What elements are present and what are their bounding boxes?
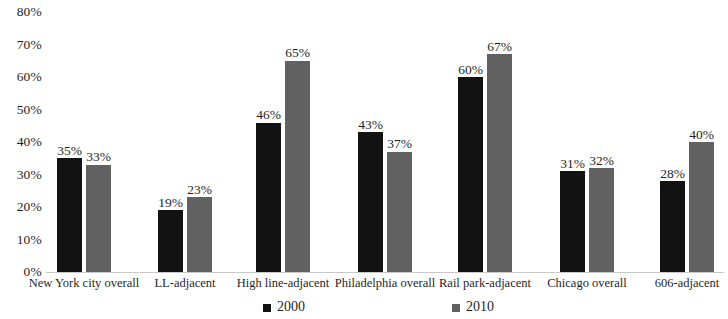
bar-2000-0: 35% — [57, 158, 82, 272]
bar-2010-5: 32% — [589, 168, 614, 272]
bar-group: 19%23% — [158, 12, 212, 272]
bar-group: 46%65% — [256, 12, 310, 272]
bar-group: 60%67% — [458, 12, 512, 272]
bar-2000-6: 28% — [660, 181, 685, 272]
bar-2010-0: 33% — [86, 165, 111, 272]
y-axis-tick-label: 40% — [17, 134, 42, 150]
bar-2010-1: 23% — [187, 197, 212, 272]
bar-2010-6: 40% — [689, 142, 714, 272]
bar-group: 43%37% — [358, 12, 412, 272]
y-axis-tick-label: 70% — [17, 37, 42, 53]
bar-value-label: 31% — [560, 157, 585, 171]
bar-2000-5: 31% — [560, 171, 585, 272]
bar-2000-3: 43% — [358, 132, 383, 272]
x-axis-labels: New York city overallLL-adjacentHigh lin… — [46, 276, 724, 296]
plot-area: 35%33%19%23%46%65%43%37%60%67%31%32%28%4… — [46, 12, 724, 272]
x-axis-category-label: New York city overall — [29, 276, 139, 291]
bar-value-label: 46% — [256, 108, 281, 122]
bar-value-label: 65% — [285, 46, 310, 60]
x-axis-category-label: Chicago overall — [547, 276, 627, 291]
bar-value-label: 40% — [689, 128, 714, 142]
bar-value-label: 35% — [57, 144, 82, 158]
y-axis-tick-label: 10% — [17, 232, 42, 248]
x-axis-category-label: Philadelphia overall — [335, 276, 435, 291]
bar-2000-4: 60% — [458, 77, 483, 272]
bar-value-label: 37% — [387, 137, 412, 151]
bar-group: 35%33% — [57, 12, 111, 272]
bar-value-label: 23% — [187, 183, 212, 197]
legend-label: 2000 — [277, 299, 305, 315]
y-axis-tick-label: 20% — [17, 199, 42, 215]
legend-swatch-icon — [452, 304, 460, 312]
legend-item-2010[interactable]: 2010 — [452, 299, 494, 315]
bar-value-label: 19% — [158, 196, 183, 210]
bar-value-label: 67% — [487, 40, 512, 54]
x-axis-baseline — [46, 272, 724, 273]
bar-value-label: 33% — [86, 150, 111, 164]
bar-2000-1: 19% — [158, 210, 183, 272]
legend-item-2000[interactable]: 2000 — [263, 299, 305, 315]
y-axis: 0%10%20%30%40%50%60%70%80% — [0, 0, 46, 285]
x-axis-category-label: High line-adjacent — [237, 276, 330, 291]
bar-chart: 0%10%20%30%40%50%60%70%80% 35%33%19%23%4… — [0, 0, 728, 319]
bar-group: 31%32% — [560, 12, 614, 272]
chart-legend: 20002010 — [0, 299, 728, 319]
bar-value-label: 28% — [660, 167, 685, 181]
bar-2000-2: 46% — [256, 123, 281, 273]
bar-2010-4: 67% — [487, 54, 512, 272]
bar-value-label: 32% — [589, 154, 614, 168]
y-axis-tick-label: 30% — [17, 167, 42, 183]
x-axis-category-label: Rail park-adjacent — [439, 276, 531, 291]
y-axis-tick-label: 60% — [17, 69, 42, 85]
y-axis-tick-label: 80% — [17, 4, 42, 20]
bar-2010-2: 65% — [285, 61, 310, 272]
bar-value-label: 60% — [458, 63, 483, 77]
legend-label: 2010 — [466, 299, 494, 315]
x-axis-category-label: LL-adjacent — [154, 276, 215, 291]
x-axis-category-label: 606-adjacent — [655, 276, 720, 291]
bar-2010-3: 37% — [387, 152, 412, 272]
y-axis-tick-label: 50% — [17, 102, 42, 118]
bar-group: 28%40% — [660, 12, 714, 272]
legend-swatch-icon — [263, 304, 271, 312]
bar-value-label: 43% — [358, 118, 383, 132]
